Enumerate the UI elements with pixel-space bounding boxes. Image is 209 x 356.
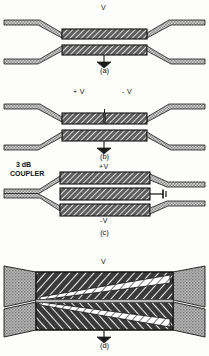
taper-left-upper: [4, 266, 36, 307]
panel-b-voltage-label-minus-v: - V: [122, 88, 132, 95]
slab-top-c: [60, 172, 150, 184]
figure-canvas: [0, 0, 209, 356]
slab-upper-b-right-segment: [105, 113, 147, 124]
taper-right-upper: [173, 266, 205, 307]
slab-upper-b-left-segment: [62, 113, 104, 124]
slab-bottom-c: [60, 204, 150, 216]
panel-d-caption: (d): [0, 341, 209, 350]
figure-waveguide-phase-shifters: V (a) + V - V (b) 3 dB COUPLER +V -V (c)…: [0, 0, 209, 356]
panel-a-caption: (a): [0, 66, 209, 75]
panel-c-coupler-label-line1: 3 dB: [16, 160, 31, 169]
panel-a-voltage-label-v: V: [101, 4, 106, 11]
slab-lower-a: [62, 45, 147, 55]
slab-middle-c: [60, 188, 150, 200]
slab-lower-b: [62, 130, 147, 141]
panel-b-caption: (b): [0, 152, 209, 161]
slab-upper-a: [62, 29, 147, 39]
panel-c-voltage-label-plus-v: +V: [99, 163, 109, 170]
panel-c-coupler-label-line2: COUPLER: [10, 169, 44, 178]
panel-c-caption: (c): [0, 228, 209, 237]
panel-d-voltage-label-v: V: [101, 258, 106, 265]
panel-b-voltage-label-plus-v: + V: [73, 88, 85, 95]
center-gap-d: [36, 300, 173, 303]
panel-c-voltage-label-minus-v: -V: [100, 217, 108, 224]
